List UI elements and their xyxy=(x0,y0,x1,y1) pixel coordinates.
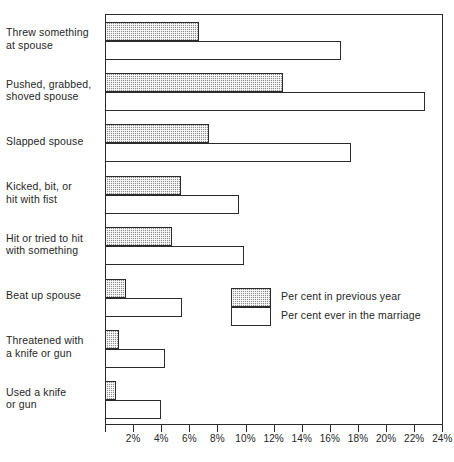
category-label-line: Threw something xyxy=(6,26,102,39)
x-axis-tick xyxy=(442,425,443,432)
bar-ever-in-marriage xyxy=(105,92,425,111)
bar-group xyxy=(106,73,442,111)
x-axis: 2%4%6%8%10%12%14%16%18%20%22%24% xyxy=(105,425,444,462)
category-label-line: Slapped spouse xyxy=(6,135,102,148)
bar-previous-year xyxy=(105,279,126,298)
x-axis-tick-label: 12% xyxy=(263,433,283,444)
category-label-line: with something xyxy=(6,244,102,257)
category-label-line: Beat up spouse xyxy=(6,289,102,302)
chart-legend: Per cent in previous yearPer cent ever i… xyxy=(231,288,431,326)
x-axis-tick-label: 20% xyxy=(376,433,396,444)
bar-chart-figure: Threw somethingat spousePushed, grabbed,… xyxy=(0,0,454,462)
category-label: Pushed, grabbed,shoved spouse xyxy=(6,78,102,103)
bar-ever-in-marriage xyxy=(105,400,161,419)
x-axis-tick xyxy=(414,425,415,432)
bar-group xyxy=(106,227,442,265)
bar-previous-year xyxy=(105,73,283,92)
bar-group xyxy=(106,124,442,162)
legend-swatch-previous-year xyxy=(231,288,271,307)
x-axis-tick-label: 22% xyxy=(404,433,424,444)
x-axis-tick-label: 24% xyxy=(432,433,452,444)
category-label-line: shoved spouse xyxy=(6,90,102,103)
category-axis: Threw somethingat spousePushed, grabbed,… xyxy=(0,14,103,425)
plot-area xyxy=(105,14,443,425)
bar-ever-in-marriage xyxy=(105,195,239,214)
bar-ever-in-marriage xyxy=(105,143,351,162)
category-label: Used a knifeor gun xyxy=(6,386,102,411)
x-axis-tick xyxy=(246,425,247,432)
category-label-line: at spouse xyxy=(6,39,102,52)
legend-item: Per cent ever in the marriage xyxy=(231,307,431,326)
bar-ever-in-marriage xyxy=(105,41,341,60)
x-axis-tick xyxy=(358,425,359,432)
x-axis-tick xyxy=(330,425,331,432)
bar-previous-year xyxy=(105,124,209,143)
x-axis-tick-label: 18% xyxy=(348,433,368,444)
category-label-line: a knife or gun xyxy=(6,347,102,360)
x-axis-tick xyxy=(217,425,218,432)
x-axis-tick xyxy=(386,425,387,432)
bar-previous-year xyxy=(105,22,199,41)
category-label-line: Used a knife xyxy=(6,386,102,399)
bar-previous-year xyxy=(105,227,172,246)
category-label: Threatened witha knife or gun xyxy=(6,334,102,359)
category-label: Hit or tried to hitwith something xyxy=(6,232,102,257)
x-axis-tick-label: 16% xyxy=(320,433,340,444)
category-label-line: Pushed, grabbed, xyxy=(6,78,102,91)
legend-label: Per cent ever in the marriage xyxy=(281,309,421,321)
bar-ever-in-marriage xyxy=(105,349,165,368)
x-axis-tick-label: 14% xyxy=(292,433,312,444)
x-axis-tick xyxy=(105,425,106,432)
x-axis-tick-label: 6% xyxy=(182,433,197,444)
category-label-line: Kicked, bit, or xyxy=(6,180,102,193)
category-label: Threw somethingat spouse xyxy=(6,26,102,51)
x-axis-tick xyxy=(161,425,162,432)
bar-ever-in-marriage xyxy=(105,298,182,317)
bar-ever-in-marriage xyxy=(105,246,244,265)
legend-swatch-ever-in-marriage xyxy=(231,307,271,326)
x-axis-tick-label: 4% xyxy=(154,433,169,444)
legend-item: Per cent in previous year xyxy=(231,288,431,307)
category-label: Kicked, bit, orhit with fist xyxy=(6,180,102,205)
x-axis-tick xyxy=(302,425,303,432)
x-axis-tick-label: 10% xyxy=(235,433,255,444)
category-label: Slapped spouse xyxy=(6,135,102,148)
bar-previous-year xyxy=(105,381,116,400)
bar-group xyxy=(106,381,442,419)
bar-group xyxy=(106,22,442,60)
category-label: Beat up spouse xyxy=(6,289,102,302)
category-label-line: hit with fist xyxy=(6,193,102,206)
legend-label: Per cent in previous year xyxy=(281,290,401,302)
bar-group xyxy=(106,330,442,368)
bar-previous-year xyxy=(105,176,181,195)
x-axis-tick xyxy=(274,425,275,432)
category-label-line: or gun xyxy=(6,398,102,411)
x-axis-tick xyxy=(133,425,134,432)
x-axis-tick-label: 8% xyxy=(210,433,225,444)
x-axis-tick-label: 2% xyxy=(126,433,141,444)
bar-group xyxy=(106,176,442,214)
category-label-line: Hit or tried to hit xyxy=(6,232,102,245)
category-label-line: Threatened with xyxy=(6,334,102,347)
bar-previous-year xyxy=(105,330,119,349)
x-axis-tick xyxy=(189,425,190,432)
